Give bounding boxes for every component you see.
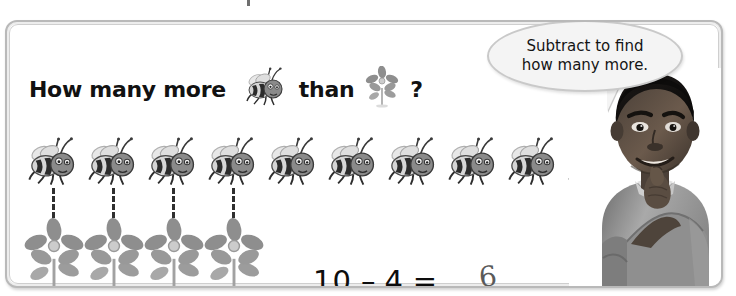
connector-line xyxy=(52,188,55,218)
flower-counter xyxy=(83,218,145,288)
equals-sign: = xyxy=(413,267,437,288)
bee-counter xyxy=(383,134,441,190)
speech-bubble-line-1: Subtract to find xyxy=(527,37,644,56)
bee-counter xyxy=(443,134,501,190)
subtraction-equation: 10 – 4 = 6 xyxy=(313,260,530,288)
bee-counter xyxy=(323,134,381,190)
bee-counter xyxy=(83,134,141,190)
flower-counter-row xyxy=(23,218,283,288)
connector-line xyxy=(112,188,115,218)
question-prefix-text: How many more xyxy=(29,77,226,102)
answer-blank[interactable]: 6 xyxy=(446,260,530,288)
cropped-text-mark xyxy=(247,0,250,6)
bee-icon xyxy=(242,67,288,111)
bee-counter xyxy=(23,134,81,190)
bee-counter xyxy=(203,134,261,190)
worksheet-page: How many more xyxy=(0,0,736,296)
question-suffix-text: ? xyxy=(410,77,422,102)
connector-line xyxy=(172,188,175,218)
flower-counter xyxy=(203,218,265,288)
flower-icon xyxy=(365,66,399,112)
bee-counter xyxy=(143,134,201,190)
flower-counter xyxy=(143,218,205,288)
bee-counter xyxy=(263,134,321,190)
speech-bubble: Subtract to find how many more. xyxy=(487,20,687,112)
equation-subtrahend: 4 xyxy=(384,267,403,288)
question-prompt: How many more xyxy=(29,66,423,112)
equation-minuend: 10 xyxy=(313,267,352,288)
activity-frame: How many more xyxy=(5,20,723,288)
answer-value: 6 xyxy=(478,262,499,288)
bee-counter-row xyxy=(23,134,623,190)
flower-counter xyxy=(23,218,85,288)
question-middle-text: than xyxy=(299,77,355,102)
bee-counter xyxy=(503,134,561,190)
connector-line xyxy=(232,188,235,218)
speech-bubble-body: Subtract to find how many more. xyxy=(487,20,683,92)
minus-sign: – xyxy=(361,267,376,288)
speech-bubble-line-2: how many more. xyxy=(522,56,648,75)
